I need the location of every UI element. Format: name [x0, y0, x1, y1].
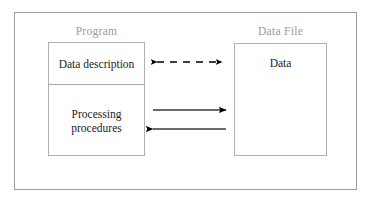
program-group-label: Program [48, 25, 145, 38]
data-label: Data [235, 56, 326, 70]
processing-procedures-cell: Processing procedures [49, 85, 144, 157]
data-description-cell: Data description [49, 43, 144, 85]
diagram-canvas: Program Data File Data description Proce… [0, 0, 373, 200]
data-file-box: Data [234, 43, 327, 156]
data-file-group-label: Data File [234, 25, 327, 38]
processing-procedures-label: Processing procedures [57, 107, 137, 135]
program-box: Data description Processing procedures [48, 42, 145, 156]
data-description-label: Data description [59, 57, 135, 71]
